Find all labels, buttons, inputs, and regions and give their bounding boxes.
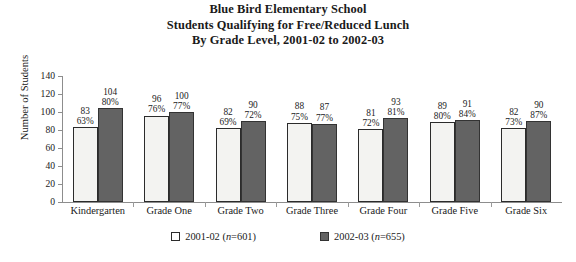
bar-group: 8172%9381% (358, 76, 408, 202)
bar-group: 8980%9184% (430, 76, 480, 202)
bar-percent-value: 77% (308, 113, 341, 123)
bar-count-value: 90 (237, 100, 270, 110)
y-tick (58, 166, 62, 167)
bar-percent-value: 81% (379, 107, 412, 117)
x-axis-line (62, 202, 562, 203)
bar-group: 8269%9072% (216, 76, 266, 202)
y-tick-label: 20 (15, 179, 55, 189)
chart-legend: 2001-02 (n=601) 2002-03 (n=655) (0, 231, 576, 242)
bar-value-label: 9072% (237, 100, 270, 120)
y-tick-label: 120 (15, 89, 55, 99)
bar (169, 112, 194, 202)
x-axis-category-label: Grade Two (205, 205, 276, 216)
bar (241, 121, 266, 202)
bar-percent-value: 84% (451, 109, 484, 119)
bar (358, 129, 383, 202)
legend-item-2001-02: 2001-02 (n=601) (171, 231, 256, 242)
x-axis-category-label: Kindergarten (62, 205, 133, 216)
bar-value-label: 9087% (522, 100, 555, 120)
bar-count-value: 87 (308, 102, 341, 112)
bar (455, 120, 480, 202)
y-tick-label: 40 (15, 161, 55, 171)
gray-square-swatch-icon (320, 232, 329, 241)
y-tick (58, 202, 62, 203)
y-tick-label: 140 (15, 71, 55, 81)
bar-percent-value: 72% (237, 110, 270, 120)
y-tick (58, 112, 62, 113)
bar-value-label: 9184% (451, 99, 484, 119)
legend-item-2002-03: 2002-03 (n=655) (320, 231, 405, 242)
bar-count-value: 93 (379, 97, 412, 107)
plot-area: Number of Students 020406080100120140836… (0, 0, 576, 262)
axes: 0204060801001201408363%10480%9676%10077%… (62, 76, 562, 202)
bar-group: 8875%8777% (287, 76, 337, 202)
bar (526, 121, 551, 202)
bar-group: 9676%10077% (144, 76, 194, 202)
bar (144, 116, 169, 202)
bar-count-value: 104 (94, 87, 127, 97)
bar (98, 108, 123, 202)
y-tick (58, 76, 62, 77)
bar (73, 127, 98, 202)
bar-percent-value: 87% (522, 110, 555, 120)
bar (501, 128, 526, 202)
bar-count-value: 100 (165, 91, 198, 101)
bar-group: 8273%9087% (501, 76, 551, 202)
y-tick (58, 130, 62, 131)
bar-count-value: 91 (451, 99, 484, 109)
bar-percent-value: 77% (165, 101, 198, 111)
bar (383, 118, 408, 202)
y-tick-label: 100 (15, 107, 55, 117)
white-square-swatch-icon (171, 232, 180, 241)
x-axis-category-label: Grade Three (276, 205, 347, 216)
bar-value-label: 10480% (94, 87, 127, 107)
x-axis-category-label: Grade One (133, 205, 204, 216)
y-axis-line (62, 76, 63, 202)
y-tick (58, 184, 62, 185)
y-tick-label: 0 (15, 197, 55, 207)
legend-label-2001-02: 2001-02 (n=601) (185, 231, 256, 242)
chart-container: Blue Bird Elementary School Students Qua… (0, 0, 576, 262)
bar (287, 123, 312, 202)
y-tick-label: 60 (15, 143, 55, 153)
x-axis-category-label: Grade Six (491, 205, 562, 216)
bar-count-value: 90 (522, 100, 555, 110)
bar-group: 8363%10480% (73, 76, 123, 202)
bar-value-label: 10077% (165, 91, 198, 111)
bar (430, 122, 455, 202)
y-tick (58, 148, 62, 149)
bar (216, 128, 241, 202)
x-axis-category-label: Grade Four (348, 205, 419, 216)
y-tick (58, 94, 62, 95)
bar-value-label: 9381% (379, 97, 412, 117)
bar-value-label: 8777% (308, 102, 341, 122)
y-tick-label: 80 (15, 125, 55, 135)
bar-percent-value: 80% (94, 97, 127, 107)
x-axis-category-label: Grade Five (419, 205, 490, 216)
bar (312, 124, 337, 202)
legend-label-2002-03: 2002-03 (n=655) (334, 231, 405, 242)
